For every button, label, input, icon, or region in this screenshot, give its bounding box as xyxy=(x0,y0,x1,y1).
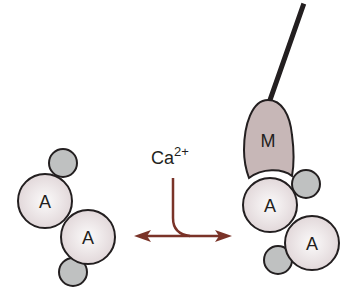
small-subunit-top xyxy=(292,170,320,198)
calcium-input-line xyxy=(173,178,190,236)
calcium-switch: Ca2+ xyxy=(134,144,232,242)
calcium-ion-label: Ca2+ xyxy=(151,144,189,168)
ion-symbol: Ca xyxy=(151,148,175,168)
actin-label: A xyxy=(82,228,94,248)
actin-label: A xyxy=(39,192,51,212)
actin-label: A xyxy=(264,196,276,216)
small-subunit-top xyxy=(49,149,77,177)
left-complex: A A xyxy=(18,149,115,286)
myosin-label: M xyxy=(261,131,276,151)
myosin-tail xyxy=(270,6,303,100)
right-complex: M A A xyxy=(243,6,339,274)
ion-charge: 2+ xyxy=(174,144,189,159)
calcium-regulation-diagram: A A Ca2+ M A A xyxy=(0,0,348,301)
actin-label: A xyxy=(306,234,318,254)
